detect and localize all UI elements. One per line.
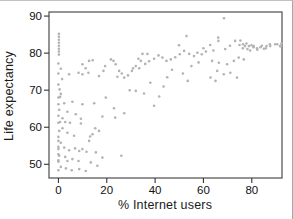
- data-point: [90, 161, 93, 164]
- data-point: [265, 45, 268, 48]
- data-point: [226, 63, 229, 66]
- data-point: [57, 72, 60, 75]
- data-point: [58, 39, 61, 42]
- data-point: [84, 67, 87, 70]
- data-point: [223, 73, 226, 76]
- data-point: [93, 102, 96, 105]
- y-tick-label: 70: [29, 84, 42, 96]
- data-point: [61, 117, 64, 120]
- data-point: [57, 83, 60, 86]
- data-point: [57, 103, 60, 106]
- data-point: [58, 109, 61, 112]
- data-point: [57, 136, 60, 139]
- data-point: [89, 135, 92, 138]
- data-point: [144, 63, 147, 66]
- data-point: [95, 151, 98, 154]
- data-point: [243, 58, 246, 61]
- data-point: [162, 85, 165, 88]
- data-point: [116, 76, 119, 79]
- data-point: [149, 82, 152, 85]
- data-point: [57, 148, 60, 151]
- data-point: [58, 47, 61, 50]
- data-point: [248, 45, 251, 48]
- x-tick-label: 40: [149, 184, 162, 196]
- data-point: [158, 95, 161, 98]
- data-point: [182, 72, 185, 75]
- data-point: [218, 62, 221, 65]
- data-point: [166, 76, 169, 79]
- data-point: [64, 156, 67, 159]
- data-point: [234, 40, 237, 43]
- y-axis-label: Life expectancy: [2, 51, 16, 141]
- data-point: [120, 155, 123, 158]
- y-tick-label: 90: [29, 10, 42, 22]
- data-point: [80, 122, 83, 125]
- y-tick-label: 60: [29, 121, 42, 133]
- data-point: [209, 44, 212, 47]
- data-point: [214, 80, 217, 83]
- data-point: [209, 76, 212, 79]
- data-point: [137, 57, 140, 60]
- data-point: [161, 56, 164, 59]
- data-point: [123, 76, 126, 79]
- data-point: [57, 169, 60, 172]
- data-point: [246, 48, 249, 51]
- data-point: [193, 55, 196, 58]
- data-point: [171, 69, 174, 72]
- data-point: [186, 80, 189, 83]
- data-point: [66, 110, 69, 113]
- data-point: [131, 70, 134, 73]
- data-point: [170, 58, 173, 61]
- data-point: [128, 89, 131, 92]
- data-point: [60, 67, 63, 70]
- data-point: [229, 44, 232, 47]
- data-point: [74, 147, 77, 150]
- data-point: [237, 56, 240, 59]
- data-point: [94, 127, 97, 130]
- data-point: [88, 140, 91, 143]
- plot-frame: [49, 12, 282, 178]
- data-point: [148, 60, 151, 63]
- data-point: [81, 63, 84, 66]
- data-point: [138, 67, 141, 70]
- data-point: [123, 112, 126, 115]
- data-point: [84, 170, 87, 173]
- data-point: [101, 115, 104, 118]
- data-point: [224, 48, 227, 51]
- data-point: [81, 148, 84, 151]
- data-point: [58, 42, 61, 45]
- data-point: [113, 107, 116, 110]
- data-point: [127, 74, 130, 77]
- data-point: [201, 53, 204, 56]
- data-point: [211, 60, 214, 63]
- data-point: [279, 45, 282, 48]
- data-point: [57, 140, 60, 143]
- data-point: [135, 65, 138, 68]
- data-point: [223, 17, 226, 20]
- data-point: [68, 73, 71, 76]
- data-point: [61, 127, 64, 130]
- data-point: [185, 35, 188, 38]
- data-point: [229, 72, 232, 75]
- data-point: [217, 40, 220, 43]
- data-point: [58, 130, 61, 133]
- data-point: [59, 121, 62, 124]
- data-point: [58, 88, 61, 91]
- data-point: [114, 116, 117, 119]
- data-point: [80, 117, 83, 120]
- data-point: [276, 43, 279, 46]
- data-point: [114, 63, 117, 66]
- data-point: [242, 47, 245, 50]
- data-point: [87, 72, 90, 75]
- data-point: [269, 43, 272, 46]
- data-point: [183, 50, 186, 53]
- data-point: [153, 57, 156, 60]
- data-point: [60, 142, 63, 145]
- data-point: [71, 158, 74, 161]
- data-point: [78, 168, 81, 171]
- data-point: [60, 166, 63, 169]
- data-point: [58, 36, 61, 39]
- data-point: [174, 56, 177, 59]
- data-point: [259, 46, 262, 49]
- data-point: [77, 72, 80, 75]
